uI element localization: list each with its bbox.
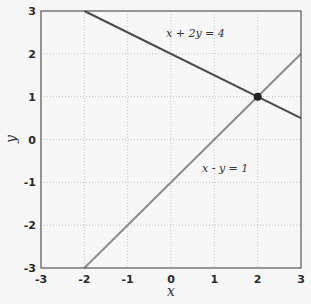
x-tick-label: -1 (122, 273, 134, 286)
annotation-line1: x + 2y = 4 (166, 27, 225, 40)
series-line-2 (84, 54, 301, 268)
intersection-point (254, 93, 262, 101)
x-tick-label: 2 (254, 273, 262, 286)
x-tick-label: -3 (35, 273, 47, 286)
intersection-points (254, 93, 262, 101)
x-tick-label: 3 (297, 273, 305, 286)
x-axis-label: x (167, 283, 175, 299)
x-tick-label: -2 (78, 273, 90, 286)
y-tick-label: 0 (28, 134, 36, 147)
y-tick-label: 1 (28, 91, 36, 104)
grid-lines (41, 11, 301, 268)
y-tick-label: 2 (28, 48, 36, 61)
y-tick-label: -2 (24, 219, 36, 232)
y-tick-label: -1 (24, 176, 36, 189)
y-axis-label: y (3, 134, 19, 144)
x-tick-label: 1 (211, 273, 219, 286)
annotation-line2: x - y = 1 (202, 162, 248, 175)
y-tick-label: -3 (24, 262, 36, 275)
y-tick-labels: -3-2-10123 (24, 5, 37, 275)
chart: -3-2-10123 -3-2-10123 x + 2y = 4 x - y =… (0, 0, 311, 304)
y-tick-label: 3 (28, 5, 36, 18)
